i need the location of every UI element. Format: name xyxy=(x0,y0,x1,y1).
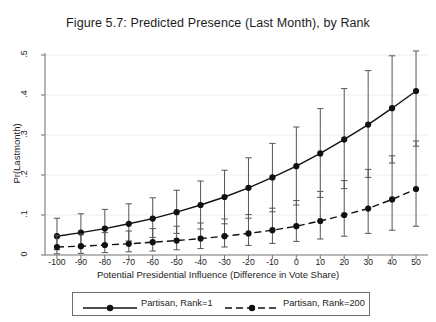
y-tick-label: .1 xyxy=(19,201,29,227)
legend-line-solid-icon xyxy=(83,303,137,313)
plot-area xyxy=(0,0,436,322)
y-tick-label: .4 xyxy=(19,81,29,107)
legend-item-rank200: Partisan, Rank=200 xyxy=(225,297,365,308)
figure-container: Figure 5.7: Predicted Presence (Last Mon… xyxy=(0,0,436,322)
x-tick-label: 50 xyxy=(401,257,431,267)
legend-item-rank1: Partisan, Rank=1 xyxy=(83,297,213,308)
chart-legend: Partisan, Rank=1 Partisan, Rank=200 xyxy=(72,292,370,316)
legend-label-rank200: Partisan, Rank=200 xyxy=(283,298,365,308)
y-tick-label: .2 xyxy=(19,161,29,187)
y-tick-label: .5 xyxy=(19,41,29,67)
legend-label-rank1: Partisan, Rank=1 xyxy=(141,298,213,308)
legend-line-dashed-icon xyxy=(225,303,279,313)
y-tick-label: .3 xyxy=(19,121,29,147)
y-tick-label: 0 xyxy=(19,241,29,267)
